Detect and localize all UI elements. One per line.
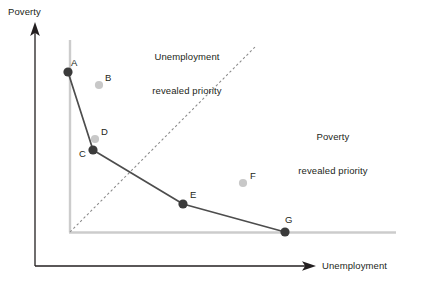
annotation-poverty-line2: revealed priority — [277, 165, 389, 176]
data-point-d[interactable] — [91, 135, 99, 143]
data-point-e[interactable] — [178, 199, 187, 208]
y-axis-title: Poverty — [8, 6, 41, 17]
data-point-c[interactable] — [88, 145, 97, 154]
x-axis-title: Unemployment — [322, 260, 387, 271]
data-point-f[interactable] — [239, 179, 247, 187]
annotation-poverty-revealed-priority: Poverty revealed priority — [277, 109, 389, 199]
data-point-label-e: E — [190, 189, 196, 200]
data-point-label-a: A — [71, 57, 77, 68]
data-point-label-b: B — [105, 72, 111, 83]
chart-canvas: Poverty Unemployment Unemployment reveal… — [0, 0, 430, 303]
data-point-label-g: G — [285, 214, 292, 225]
data-point-a[interactable] — [63, 67, 72, 76]
annotation-poverty-line1: Poverty — [277, 131, 389, 142]
data-point-g[interactable] — [280, 227, 289, 236]
annotation-unemployment-revealed-priority: Unemployment revealed priority — [131, 29, 243, 119]
data-point-label-f: F — [250, 170, 256, 181]
data-point-label-c: C — [79, 148, 86, 159]
data-point-b[interactable] — [95, 81, 103, 89]
data-point-label-d: D — [101, 126, 108, 137]
annotation-unemployment-line1: Unemployment — [131, 51, 243, 62]
annotation-unemployment-line2: revealed priority — [131, 85, 243, 96]
